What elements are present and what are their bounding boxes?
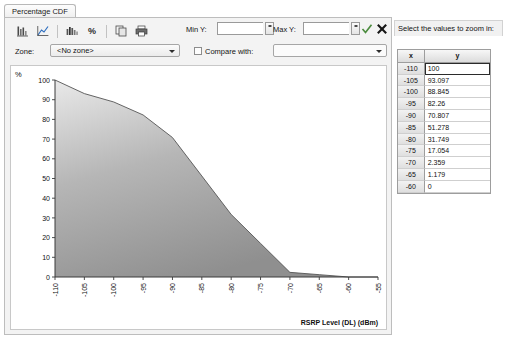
svg-text:90: 90 [42,96,50,103]
max-y-spin-buttons[interactable] [351,22,360,35]
svg-text:100: 100 [38,77,50,84]
table-row[interactable]: -7517.054 [398,145,490,157]
line-chart-icon[interactable] [34,22,52,40]
values-grid-header: xy [398,49,490,63]
svg-text:70: 70 [42,136,50,143]
cell-y[interactable]: 88.845 [425,86,490,98]
cell-x[interactable]: -60 [398,181,425,193]
toolbar-separator [57,25,58,38]
table-row[interactable]: -110100 [398,63,490,75]
cell-y[interactable]: 0 [425,181,490,193]
svg-text:50: 50 [42,175,50,182]
svg-text:-110: -110 [52,283,59,297]
table-row[interactable]: -10088.845 [398,86,490,98]
table-row[interactable]: -702.359 [398,157,490,169]
column-header-y[interactable]: y [425,50,490,62]
filter-row: Zone: <No zone> Compare with: [5,43,391,63]
histogram-icon[interactable] [63,22,81,40]
chart-toolbar-icons: % [14,22,150,40]
toolbar-separator-2 [106,25,107,38]
print-icon[interactable] [132,22,150,40]
cell-y[interactable]: 31.749 [425,134,490,146]
svg-text:60: 60 [42,155,50,162]
svg-text:-55: -55 [375,283,382,293]
svg-text:-60: -60 [345,283,352,293]
chart-panel: % Min Y: [4,17,392,335]
svg-text:40: 40 [42,195,50,202]
cell-y[interactable]: 100 [425,63,490,75]
cell-x[interactable]: -75 [398,145,425,157]
svg-text:-80: -80 [228,283,235,293]
table-row[interactable]: -10593.097 [398,75,490,87]
min-y-input[interactable] [217,22,263,35]
chevron-down-icon [169,50,175,53]
column-header-x[interactable]: x [398,50,425,62]
max-y-input[interactable] [303,22,349,35]
table-row[interactable]: -9582.26 [398,98,490,110]
cell-x[interactable]: -90 [398,110,425,122]
compare-with-checkbox[interactable] [194,47,202,55]
x-axis-title: RSRP Level (DL) (dBm) [301,319,378,326]
cell-y[interactable]: 2.359 [425,157,490,169]
svg-text:-75: -75 [257,283,264,293]
svg-text:80: 80 [42,116,50,123]
zoom-values-title: Select the values to zoom in: [394,20,503,36]
compare-with-label: Compare with: [205,47,253,56]
cell-x[interactable]: -85 [398,122,425,134]
cell-x[interactable]: -70 [398,157,425,169]
values-grid[interactable]: xy-110100-10593.097-10088.845-9582.26-90… [397,49,491,194]
svg-text:-100: -100 [110,283,117,297]
copy-icon[interactable] [112,22,130,40]
svg-text:10: 10 [42,254,50,261]
apply-check-icon[interactable] [360,22,373,35]
cell-x[interactable]: -100 [398,86,425,98]
chart-toolbar: % Min Y: [5,18,391,43]
tab-label: Percentage CDF [12,7,68,16]
compare-with-select[interactable] [273,44,387,57]
max-y-label: Max Y: [273,25,296,34]
svg-text:-90: -90 [169,283,176,293]
svg-text:-105: -105 [81,283,88,297]
min-y-stepper[interactable] [217,22,274,35]
cancel-close-icon[interactable] [375,22,388,35]
cell-x[interactable]: -110 [398,63,425,75]
percent-icon[interactable]: % [83,22,101,40]
cell-x[interactable]: -105 [398,75,425,87]
cell-x[interactable]: -80 [398,134,425,146]
cell-y[interactable]: 17.054 [425,145,490,157]
svg-text:-65: -65 [316,283,323,293]
chevron-down-icon-compare [376,50,382,53]
table-row[interactable]: -9070.807 [398,110,490,122]
table-row[interactable]: -8551.278 [398,122,490,134]
max-y-stepper[interactable] [303,22,360,35]
bar-chart-icon[interactable] [14,22,32,40]
table-row[interactable]: -651.179 [398,169,490,181]
svg-text:0: 0 [46,274,50,281]
svg-text:20: 20 [42,234,50,241]
zone-select[interactable]: <No zone> [50,44,180,57]
cdf-chart[interactable]: % 0102030405060708090100-110-105-100-95-… [10,65,387,330]
chart-plot-svg: 0102030405060708090100-110-105-100-95-90… [11,66,386,329]
svg-text:30: 30 [42,215,50,222]
svg-text:-95: -95 [140,283,147,293]
min-y-label: Min Y: [186,25,207,34]
svg-text:-70: -70 [287,283,294,293]
zone-selected-value: <No zone> [57,46,94,55]
tab-strip: Percentage CDF [4,4,392,18]
application-window: Percentage CDF [0,0,507,339]
zoom-values-panel: Select the values to zoom in: xy-110100-… [394,4,503,335]
cell-x[interactable]: -65 [398,169,425,181]
table-row[interactable]: -600 [398,181,490,193]
svg-text:-85: -85 [198,283,205,293]
cell-y[interactable]: 1.179 [425,169,490,181]
table-row[interactable]: -8031.749 [398,134,490,146]
cell-x[interactable]: -95 [398,98,425,110]
cell-y[interactable]: 82.26 [425,98,490,110]
zone-label: Zone: [15,47,34,56]
cell-y[interactable]: 93.097 [425,75,490,87]
cell-y[interactable]: 51.278 [425,122,490,134]
cell-y[interactable]: 70.807 [425,110,490,122]
